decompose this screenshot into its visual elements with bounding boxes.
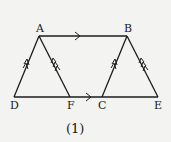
- point-label-B: B: [124, 22, 132, 35]
- figure-caption: (1): [66, 121, 84, 136]
- segment-CB: [102, 36, 127, 97]
- arrow-triple-icon: [51, 58, 60, 71]
- point-label-D: D: [10, 99, 19, 112]
- point-label-C: C: [98, 99, 106, 112]
- parallel-lines-figure: A B D F C E (1): [0, 0, 171, 142]
- point-label-F: F: [67, 99, 75, 112]
- segment-EB: [127, 36, 158, 97]
- point-label-A: A: [35, 22, 45, 35]
- segment-DA: [14, 36, 39, 97]
- arrow-triple-icon: [139, 58, 148, 71]
- segment-FA: [39, 36, 70, 97]
- point-label-E: E: [154, 99, 162, 112]
